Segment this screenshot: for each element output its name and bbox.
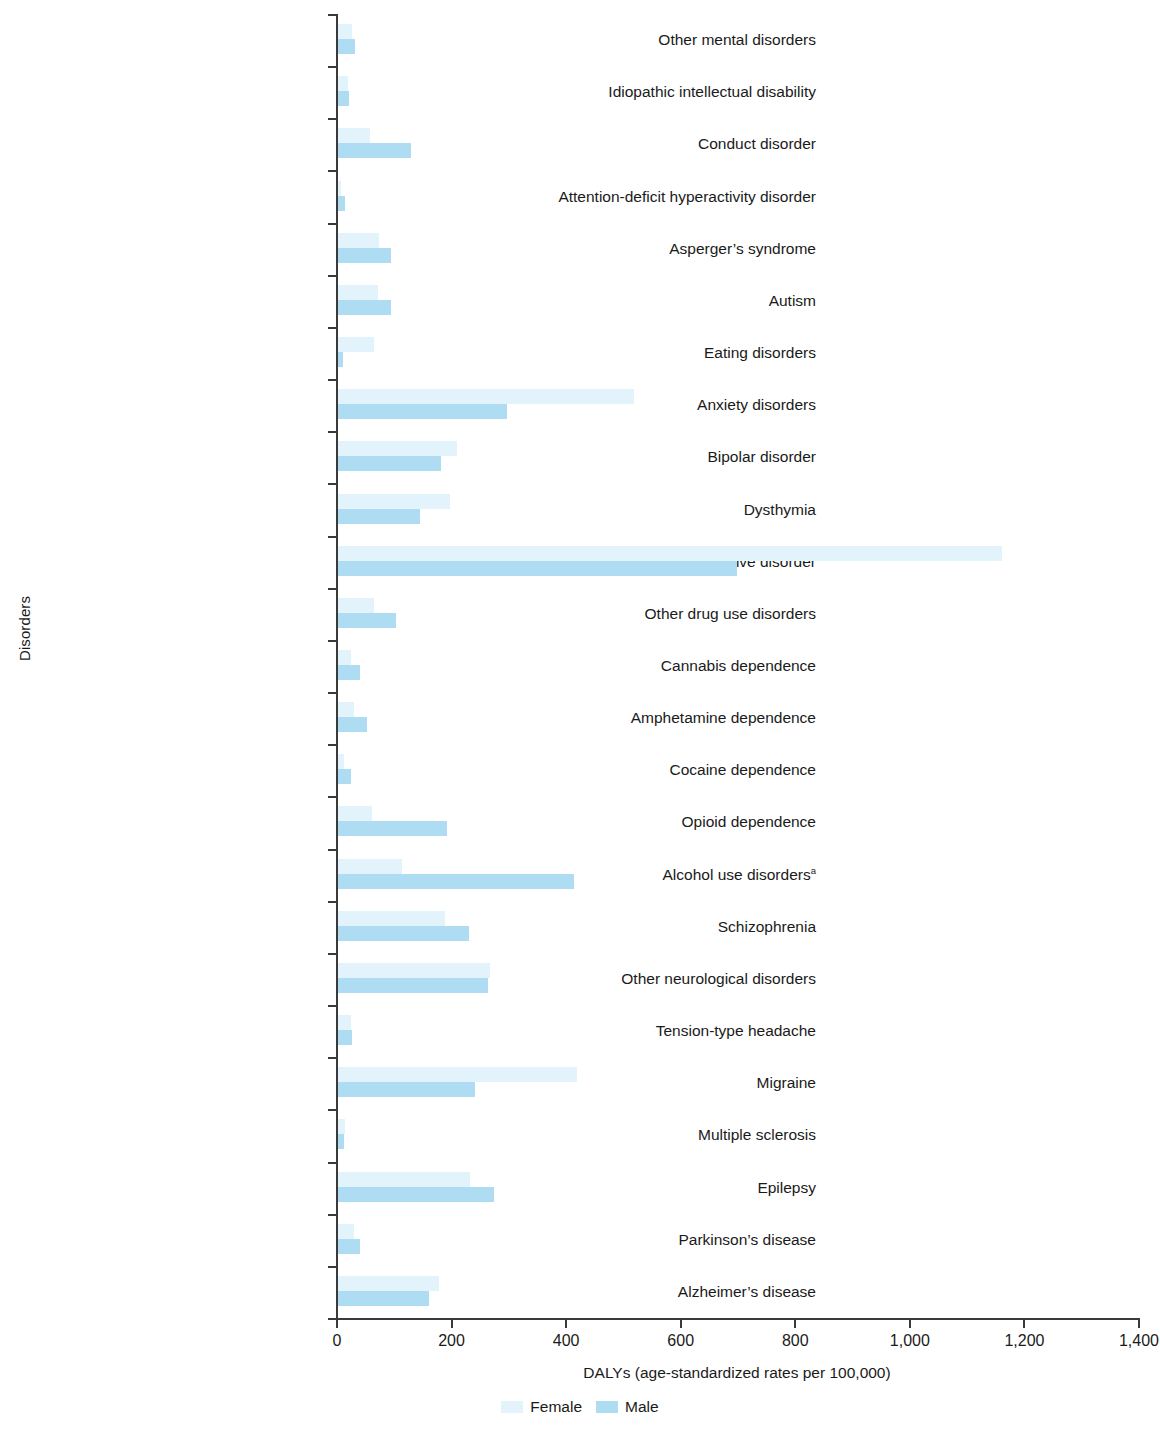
y-axis-tick xyxy=(328,536,337,538)
x-axis-tick-label: 0 xyxy=(292,1332,382,1350)
y-axis-tick-label: Eating disorders xyxy=(376,344,816,361)
x-axis-tick xyxy=(794,1318,796,1328)
chart-category-row: Schizophrenia xyxy=(0,901,1160,953)
y-axis-tick xyxy=(328,953,337,955)
y-axis-tick xyxy=(328,1109,337,1111)
bar-female xyxy=(338,806,372,821)
x-axis-spine xyxy=(336,1318,1140,1320)
bar-female xyxy=(338,546,1002,561)
bar-male xyxy=(338,352,343,367)
bar-female xyxy=(338,24,352,39)
y-axis-tick xyxy=(328,1318,337,1320)
bar-female xyxy=(338,1015,351,1030)
chart-category-row: Parkinson’s disease xyxy=(0,1214,1160,1266)
x-axis-tick-label: 200 xyxy=(407,1332,497,1350)
chart-category-row: Cocaine dependence xyxy=(0,744,1160,796)
legend-label: Male xyxy=(625,1398,659,1416)
y-axis-tick xyxy=(328,223,337,225)
bar-chart-figure: Disorders Other mental disordersIdiopath… xyxy=(0,0,1160,1430)
bar-female xyxy=(338,911,445,926)
chart-category-row: Eating disorders xyxy=(0,327,1160,379)
bar-female xyxy=(338,389,634,404)
chart-category-row: Dysthymia xyxy=(0,483,1160,535)
y-axis-tick xyxy=(328,1162,337,1164)
y-axis-tick-label: Other drug use disorders xyxy=(376,605,816,622)
chart-category-row: Alzheimer’s disease xyxy=(0,1266,1160,1318)
bar-female xyxy=(338,754,344,769)
chart-category-row: Anxiety disorders xyxy=(0,379,1160,431)
y-axis-tick xyxy=(328,849,337,851)
y-axis-tick-label: Alzheimer’s disease xyxy=(376,1283,816,1300)
bar-male xyxy=(338,978,488,993)
bar-male xyxy=(338,1239,360,1254)
y-axis-tick xyxy=(328,66,337,68)
chart-category-row: Asperger’s syndrome xyxy=(0,223,1160,275)
bar-female xyxy=(338,337,374,352)
y-axis-tick xyxy=(328,1005,337,1007)
y-axis-tick-label: Autism xyxy=(376,292,816,309)
bar-male xyxy=(338,874,574,889)
x-axis-tick-label: 1,000 xyxy=(865,1332,955,1350)
x-axis-tick xyxy=(680,1318,682,1328)
bar-male xyxy=(338,1291,429,1306)
bar-male xyxy=(338,196,345,211)
y-axis-tick xyxy=(328,692,337,694)
x-axis-tick xyxy=(909,1318,911,1328)
y-axis-tick-label: Multiple sclerosis xyxy=(376,1126,816,1143)
y-axis-tick xyxy=(328,1057,337,1059)
bar-male xyxy=(338,561,737,576)
y-axis-tick xyxy=(328,588,337,590)
chart-category-row: Epilepsy xyxy=(0,1162,1160,1214)
bar-female xyxy=(338,963,490,978)
x-axis-tick-label: 600 xyxy=(636,1332,726,1350)
chart-category-row: Migraine xyxy=(0,1057,1160,1109)
legend-label: Female xyxy=(530,1398,582,1416)
bar-male xyxy=(338,1030,352,1045)
bar-female xyxy=(338,859,402,874)
bar-female xyxy=(338,1224,354,1239)
bar-male xyxy=(338,821,447,836)
x-axis-tick-label: 800 xyxy=(750,1332,840,1350)
y-axis-tick xyxy=(328,14,337,16)
chart-category-row: Bipolar disorder xyxy=(0,431,1160,483)
bar-female xyxy=(338,494,450,509)
bar-male xyxy=(338,1187,494,1202)
bar-male xyxy=(338,926,469,941)
bar-male xyxy=(338,91,349,106)
y-axis-tick xyxy=(328,796,337,798)
bar-female xyxy=(338,1172,470,1187)
y-axis-tick-label: Attention-deficit hyperactivity disorder xyxy=(376,188,816,205)
legend-item: Male xyxy=(596,1398,659,1416)
y-axis-tick-label: Asperger’s syndrome xyxy=(376,240,816,257)
chart-category-row: Other drug use disorders xyxy=(0,588,1160,640)
bar-male xyxy=(338,613,396,628)
bar-male xyxy=(338,509,420,524)
bar-male xyxy=(338,717,367,732)
bar-male xyxy=(338,665,360,680)
bar-male xyxy=(338,1134,344,1149)
y-axis-tick xyxy=(328,744,337,746)
y-axis-tick-label: Parkinson’s disease xyxy=(376,1231,816,1248)
y-axis-tick xyxy=(328,275,337,277)
chart-category-row: Idiopathic intellectual disability xyxy=(0,66,1160,118)
y-axis-tick-label: Cocaine dependence xyxy=(376,761,816,778)
y-axis-tick xyxy=(328,118,337,120)
bar-male xyxy=(338,1082,475,1097)
y-axis-tick xyxy=(328,483,337,485)
bar-male xyxy=(338,300,391,315)
bar-male xyxy=(338,143,411,158)
bar-female xyxy=(338,181,341,196)
y-axis-tick-label: Amphetamine dependence xyxy=(376,709,816,726)
chart-legend: FemaleMale xyxy=(0,1398,1160,1416)
x-axis-tick xyxy=(565,1318,567,1328)
footnote-marker: a xyxy=(811,864,816,875)
chart-category-row: Amphetamine dependence xyxy=(0,692,1160,744)
y-axis-tick-label: Cannabis dependence xyxy=(376,657,816,674)
chart-category-row: Major depressive disorder xyxy=(0,536,1160,588)
chart-category-row: Conduct disorder xyxy=(0,118,1160,170)
legend-swatch xyxy=(596,1401,618,1413)
chart-category-row: Multiple sclerosis xyxy=(0,1109,1160,1161)
y-axis-tick xyxy=(328,1214,337,1216)
y-axis-tick xyxy=(328,379,337,381)
bar-male xyxy=(338,39,355,54)
